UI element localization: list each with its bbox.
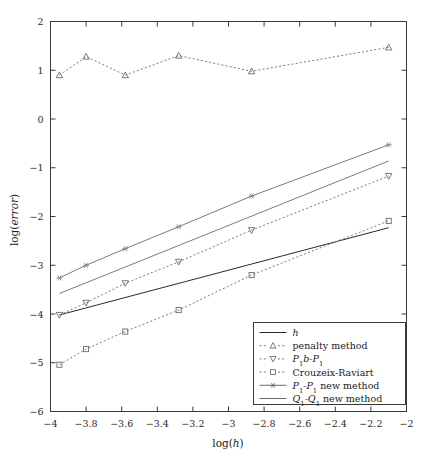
x-tick-label: −3.4 bbox=[146, 418, 169, 429]
x-tick-label: −3.8 bbox=[75, 418, 98, 429]
x-tick-label: −2.4 bbox=[324, 418, 347, 429]
y-tick-label: −6 bbox=[29, 406, 43, 417]
figure-root: −4−3.8−3.6−3.4−3.2−3−2.8−2.6−2.4−2.2−2−6… bbox=[0, 0, 426, 462]
legend-label: Crouzeix-Raviart bbox=[293, 367, 374, 378]
x-tick-label: −2.8 bbox=[253, 418, 276, 429]
legend[interactable]: hpenalty methodP1b-P1Crouzeix-RaviartP1-… bbox=[254, 323, 406, 409]
x-tick-label: −3.2 bbox=[181, 418, 204, 429]
y-tick-label: 2 bbox=[37, 16, 43, 27]
y-axis-title: log(error) bbox=[8, 194, 20, 246]
y-tick-label: 0 bbox=[37, 114, 43, 125]
x-tick-label: −4 bbox=[43, 418, 57, 429]
x-tick-label: −2 bbox=[399, 418, 413, 429]
x-axis-title: log(h) bbox=[212, 437, 243, 449]
y-tick-label: −3 bbox=[29, 260, 43, 271]
y-tick-label: −2 bbox=[29, 211, 43, 222]
x-tick-label: −2.2 bbox=[359, 418, 382, 429]
x-tick-label: −3 bbox=[221, 418, 235, 429]
y-tick-label: 1 bbox=[37, 65, 43, 76]
line-chart: −4−3.8−3.6−3.4−3.2−3−2.8−2.6−2.4−2.2−2−6… bbox=[0, 0, 426, 462]
legend-label: penalty method bbox=[293, 340, 368, 351]
y-tick-label: −5 bbox=[29, 357, 43, 368]
y-tick-label: −4 bbox=[29, 309, 43, 320]
x-tick-label: −3.6 bbox=[110, 418, 133, 429]
x-tick-label: −2.6 bbox=[288, 418, 311, 429]
y-tick-label: −1 bbox=[29, 162, 43, 173]
legend-label: h bbox=[293, 327, 299, 338]
